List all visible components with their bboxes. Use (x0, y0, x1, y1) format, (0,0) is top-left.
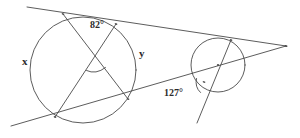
lower-secant-line (11, 46, 286, 126)
chord-top-right-to-bottom-left (55, 24, 116, 117)
angle-arc-82 (87, 68, 106, 73)
arc-label-y: y (139, 48, 145, 59)
arc-label-x: x (22, 56, 28, 67)
geometry-diagram: x y 82° 127° (0, 0, 300, 138)
geometry-canvas (0, 0, 300, 138)
angle-label-82: 82° (90, 20, 104, 30)
upper-secant-line (27, 7, 286, 46)
small-circle-center-dot (217, 64, 219, 66)
large-circle (30, 17, 136, 123)
steep-chord-line (197, 40, 231, 123)
angle-label-127: 127° (164, 88, 183, 98)
